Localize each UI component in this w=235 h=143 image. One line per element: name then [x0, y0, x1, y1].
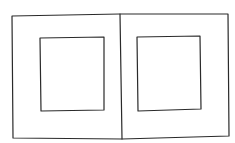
center-divider — [120, 14, 122, 139]
right-inner-square — [137, 36, 201, 111]
left-inner-square — [40, 37, 104, 111]
two-square-frames-diagram — [0, 0, 235, 143]
